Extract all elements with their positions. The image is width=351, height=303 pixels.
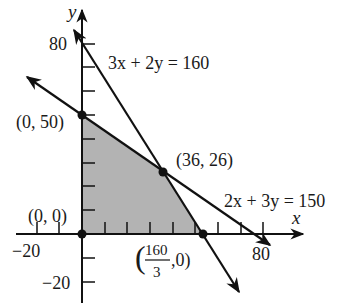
linear-programming-graph: y x 80 −20 −20 80 3x + 2y = 160 2x + 3y … [0, 0, 351, 303]
svg-text:,0): ,0) [171, 250, 191, 271]
point-label-160-3-0: ( 160 3 ,0) [135, 239, 191, 280]
y-ticks [82, 44, 95, 282]
point-label-36-26: (36, 26) [176, 150, 233, 171]
svg-text:160: 160 [145, 242, 168, 258]
y-axis-label: y [66, 1, 77, 22]
equation-label-2x-3y: 2x + 3y = 150 [224, 191, 325, 211]
equation-label-3x-2y: 3x + 2y = 160 [108, 53, 209, 73]
vertex-0-50 [78, 111, 87, 120]
vertex-0-0 [78, 230, 87, 239]
x-tick-label-neg20: −20 [12, 241, 40, 261]
vertex-36-26 [159, 168, 168, 177]
x-tick-label-80: 80 [252, 244, 270, 264]
point-label-0-50: (0, 50) [16, 112, 64, 133]
y-tick-label-neg20: −20 [42, 273, 70, 293]
point-label-0-0: (0, 0) [28, 206, 67, 227]
feasible-region [82, 115, 203, 234]
svg-text:3: 3 [153, 264, 161, 280]
y-tick-label-80: 80 [49, 34, 67, 54]
vertex-160-3-0 [199, 230, 208, 239]
x-ticks [37, 222, 263, 234]
